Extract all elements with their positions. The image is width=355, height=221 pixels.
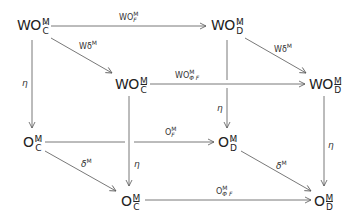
node-wo-c-tilde: WOMC	[17, 17, 50, 36]
arrow-delta-right	[241, 151, 311, 191]
node-wo-d-tilde: WOMD	[211, 17, 244, 36]
label-eta-back-left: η	[22, 79, 28, 88]
label-wo-f: WOMF	[119, 11, 138, 23]
node-o-c-tilde: OMC	[23, 134, 42, 153]
label-wdelta-right: WδM	[274, 43, 292, 54]
label-eta-front-left: η	[134, 160, 140, 169]
label-delta-left: δM	[81, 158, 92, 169]
arrow-delta-left	[45, 151, 116, 191]
node-o-d-bar: OMD	[314, 193, 333, 212]
node-wo-d-bar: WOMD	[309, 76, 342, 95]
label-delta-right: δM	[276, 160, 287, 171]
label-eta-back-right: η	[217, 104, 223, 113]
label-o-f: OMF	[165, 126, 176, 138]
node-o-d-tilde: OMD	[218, 134, 237, 153]
diagram-edges	[0, 0, 355, 221]
label-o-phi-f: OMΦ F	[216, 185, 232, 197]
node-wo-c-bar: WOMC	[115, 76, 148, 95]
label-wdelta-left: WδM	[79, 40, 97, 51]
label-wo-phi-f: WOMΦ F	[175, 69, 199, 81]
label-eta-front-right: η	[328, 141, 334, 150]
node-o-c-bar: OMC	[121, 193, 140, 212]
